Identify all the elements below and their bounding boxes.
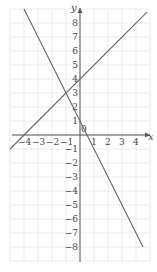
y-tick-label: 5	[72, 60, 78, 70]
x-tick-label: 3	[119, 137, 125, 147]
x-tick-label: −3	[32, 137, 46, 147]
x-axis-label: x	[148, 131, 154, 142]
y-tick-label: 6	[72, 46, 78, 56]
y-tick-label: 8	[72, 18, 78, 28]
y-tick-label: −3	[65, 172, 79, 182]
y-tick-label: −5	[65, 200, 79, 210]
y-tick-label: 1	[72, 116, 78, 126]
y-tick-label: −7	[65, 228, 79, 238]
y-tick-label: 7	[72, 32, 78, 42]
y-tick-label: 4	[72, 74, 78, 84]
line-y-equals-minus-2x-plus-1	[24, 9, 143, 247]
line-y-equals-x-plus-4	[10, 12, 147, 149]
y-tick-label: −2	[65, 158, 78, 168]
y-tick-label: 3	[72, 88, 78, 98]
y-tick-label: −6	[65, 214, 79, 224]
x-tick-label: −2	[46, 137, 59, 147]
x-tick-label: 2	[105, 137, 111, 147]
coordinate-graph: x y −4−3−2−101234 87654321−1−2−3−4−5−6−7…	[0, 0, 157, 272]
y-tick-label: −4	[65, 186, 79, 196]
y-tick-label: −1	[65, 144, 78, 154]
y-tick-label: −8	[65, 242, 79, 252]
x-tick-label: 4	[133, 137, 139, 147]
y-axis-label: y	[70, 2, 77, 13]
